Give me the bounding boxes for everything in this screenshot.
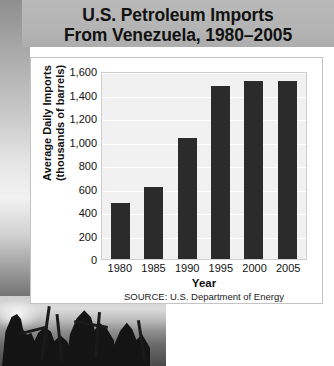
x-axis-tick-label: 1995 [204,262,238,274]
x-axis-tick-label: 1980 [103,262,137,274]
chart-title-line-2: From Venezuela, 1980–2005 [64,25,292,45]
bar-2000 [244,81,263,259]
chart-title-band: U.S. Petroleum Imports From Venezuela, 1… [22,0,334,47]
y-axis-tick-label: 1,000 [69,137,97,149]
oil-derrick-photo-bottom [0,296,166,366]
bar-slot [271,73,304,259]
bar-series [102,73,306,259]
bar-2005 [278,81,297,259]
chart-inner: Average Daily Imports (thousands of barr… [31,58,322,303]
y-axis-tick-label: 1,600 [69,66,97,78]
plot-area [101,72,307,260]
x-axis-tick-label: 2005 [271,262,305,274]
x-axis-title: Year [101,277,307,289]
bar-slot [137,73,170,259]
x-axis-tick-label: 2000 [238,262,272,274]
y-axis-tick-label: 1,200 [69,113,97,125]
y-axis-tick-label: 1,400 [69,90,97,102]
x-axis-tick-labels: 198019851990199520002005 [101,262,307,274]
x-axis-tick-label: 1985 [137,262,171,274]
bar-1980 [111,203,130,259]
y-axis-tick-label: 400 [79,207,97,219]
y-axis-tick-label: 200 [79,231,97,243]
bar-1995 [211,86,230,259]
bar-1990 [178,138,197,259]
bar-slot [104,73,137,259]
y-axis-tick-labels: 1,6001,4001,2001,0008006004002000 [51,72,97,260]
chart-card: Average Daily Imports (thousands of barr… [30,57,323,304]
bar-slot [171,73,204,259]
bar-slot [237,73,270,259]
chart-title-line-1: U.S. Petroleum Imports [82,5,273,25]
source-note: SOURCE: U.S. Department of Energy [91,291,317,302]
derrick-silhouette-icon [66,308,114,366]
y-axis-tick-label: 800 [79,160,97,172]
bar-1985 [144,187,163,259]
x-axis-tick-label: 1990 [170,262,204,274]
y-axis-tick-label: 0 [91,254,97,266]
y-axis-tick-label: 600 [79,184,97,196]
bar-slot [204,73,237,259]
